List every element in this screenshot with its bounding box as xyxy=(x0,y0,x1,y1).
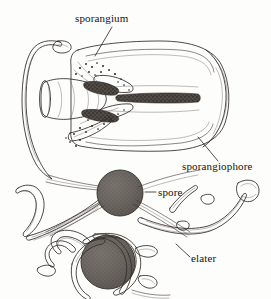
spore-upper-texture xyxy=(97,170,143,216)
label-sporangiophore: sporangiophore xyxy=(182,160,253,172)
botanical-illustration-figure: sporangium sporangiophore spore elater xyxy=(0,0,271,299)
figure-canvas: sporangium sporangiophore spore elater xyxy=(0,0,271,299)
label-sporangium: sporangium xyxy=(75,12,129,24)
label-spore: spore xyxy=(158,186,183,198)
label-elater: elater xyxy=(191,252,217,264)
spore-upper xyxy=(97,170,143,216)
